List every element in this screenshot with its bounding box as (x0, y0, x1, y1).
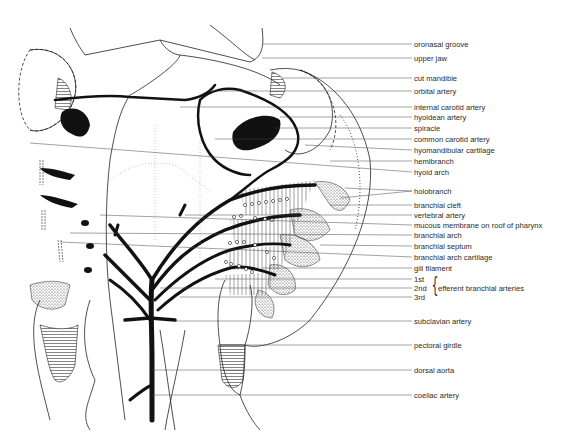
label-pectoral-girdle: pectoral girdle (414, 341, 462, 350)
label-common-carotid-artery: common carotid artery (414, 135, 490, 144)
mucous-membrane-outline (110, 125, 210, 260)
label-internal-carotid-artery: internal carotid artery (414, 103, 485, 112)
label-spiracle: spiracle (414, 124, 440, 133)
label-hyoidean-artery: hyoidean artery (414, 113, 466, 122)
label-coeliac-artery: coeliac artery (414, 391, 459, 400)
label-mucous-membrane: mucous membrane on roof of pharynx (414, 221, 542, 230)
label-branchial-septum: branchial septum (414, 242, 472, 251)
label-oronasal-groove: oronasal groove (414, 40, 468, 49)
label-1st: 1st (414, 275, 424, 284)
label-upper-jaw: upper jaw (414, 54, 447, 63)
label-hyoid-arch: hyoid arch (414, 168, 449, 177)
label-subclavian-artery: subclavian artery (414, 317, 471, 326)
label-hemibranch: hemibranch (414, 157, 454, 166)
label-efferent-branchial-arteries: efferent branchial arteries (438, 284, 524, 293)
label-orbital-artery: orbital artery (414, 87, 456, 96)
label-vertebral-artery: vertebral artery (414, 211, 465, 220)
label-branchial-cleft: branchial cleft (414, 201, 461, 210)
label-dorsal-aorta: dorsal aorta (414, 366, 454, 375)
label-branchial-arch: branchial arch (414, 231, 462, 240)
label-hyomandibular-cartilage: hyomandibular cartilage (414, 146, 495, 155)
label-branchial-arch-cartilage: branchial arch cartilage (414, 253, 493, 262)
label-cut-mandible: cut mandible (414, 74, 457, 83)
label-3rd: 3rd (414, 293, 425, 302)
label-holobranch: holobranch (414, 187, 452, 196)
label-2nd: 2nd (414, 284, 427, 293)
